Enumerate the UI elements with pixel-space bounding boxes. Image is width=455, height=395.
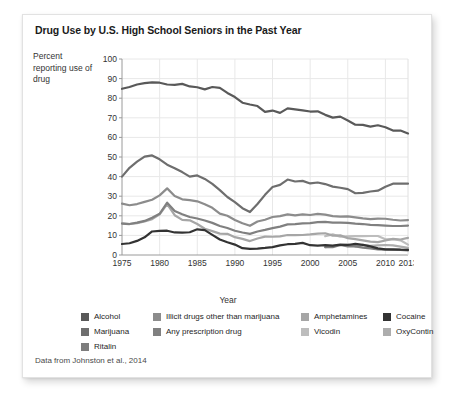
line-chart-svg: 0102030405060708090100 19751980198519901…	[98, 53, 414, 277]
page-title: Drug Use by U.S. High School Seniors in …	[35, 24, 301, 36]
svg-text:2010: 2010	[376, 258, 395, 268]
legend-item[interactable]: Any prescription drug	[153, 324, 301, 339]
legend-item-label: Marijuana	[94, 327, 129, 336]
legend-column: AlcoholMarijuanaRitalin	[81, 309, 153, 354]
legend-swatch-icon	[81, 328, 89, 336]
svg-text:1980: 1980	[150, 258, 169, 268]
svg-text:20: 20	[108, 211, 118, 221]
legend-item-label: Alcohol	[94, 312, 120, 321]
svg-text:50: 50	[108, 152, 118, 162]
legend-item-label: Illicit drugs other than marijuana	[166, 312, 279, 321]
legend-item-label: Cocaine	[396, 312, 425, 321]
legend-swatch-icon	[81, 313, 89, 321]
legend-swatch-icon	[383, 328, 391, 336]
svg-text:1975: 1975	[113, 258, 132, 268]
source-note: Data from Johnston et al., 2014	[35, 356, 147, 365]
legend-item[interactable]: Cocaine	[383, 309, 453, 324]
svg-text:10: 10	[108, 230, 118, 240]
y-axis-label: Percent reporting use of drug	[33, 51, 95, 86]
legend-item-label: Vicodin	[314, 327, 340, 336]
plot-area: 0102030405060708090100 19751980198519901…	[98, 53, 414, 277]
legend-column: CocaineOxyContin	[383, 309, 453, 339]
legend-swatch-icon	[153, 328, 161, 336]
legend-swatch-icon	[81, 343, 89, 351]
x-axis-label: Year	[23, 295, 433, 305]
legend-item[interactable]: Vicodin	[301, 324, 383, 339]
legend-item[interactable]: Amphetamines	[301, 309, 383, 324]
legend-item-label: Amphetamines	[314, 312, 367, 321]
svg-text:90: 90	[108, 74, 118, 84]
svg-text:1990: 1990	[225, 258, 244, 268]
legend-swatch-icon	[301, 313, 309, 321]
svg-text:2013: 2013	[399, 258, 414, 268]
legend-swatch-icon	[301, 328, 309, 336]
svg-text:40: 40	[108, 172, 118, 182]
legend-swatch-icon	[153, 313, 161, 321]
grid-lines	[122, 59, 408, 255]
y-tick-labels: 0102030405060708090100	[103, 54, 122, 260]
x-tick-labels: 197519801985199019952000200520102013	[113, 258, 414, 268]
svg-text:70: 70	[108, 113, 118, 123]
svg-text:2000: 2000	[301, 258, 320, 268]
svg-text:1995: 1995	[263, 258, 282, 268]
legend-item[interactable]: OxyContin	[383, 324, 453, 339]
legend-swatch-icon	[383, 313, 391, 321]
svg-text:1985: 1985	[188, 258, 207, 268]
svg-text:100: 100	[103, 54, 117, 64]
legend-item[interactable]: Ritalin	[81, 339, 153, 354]
svg-text:2005: 2005	[338, 258, 357, 268]
legend-item[interactable]: Illicit drugs other than marijuana	[153, 309, 301, 324]
data-series-group	[122, 82, 408, 250]
legend-column: Illicit drugs other than marijuanaAny pr…	[153, 309, 301, 339]
legend-item-label: OxyContin	[396, 327, 433, 336]
svg-text:60: 60	[108, 132, 118, 142]
svg-text:30: 30	[108, 191, 118, 201]
legend-item[interactable]: Marijuana	[81, 324, 153, 339]
chart-card: Drug Use by U.S. High School Seniors in …	[22, 14, 432, 378]
svg-text:80: 80	[108, 93, 118, 103]
legend-column: AmphetaminesVicodin	[301, 309, 383, 339]
legend-item-label: Any prescription drug	[166, 327, 242, 336]
legend-item[interactable]: Alcohol	[81, 309, 153, 324]
legend-item-label: Ritalin	[94, 342, 116, 351]
